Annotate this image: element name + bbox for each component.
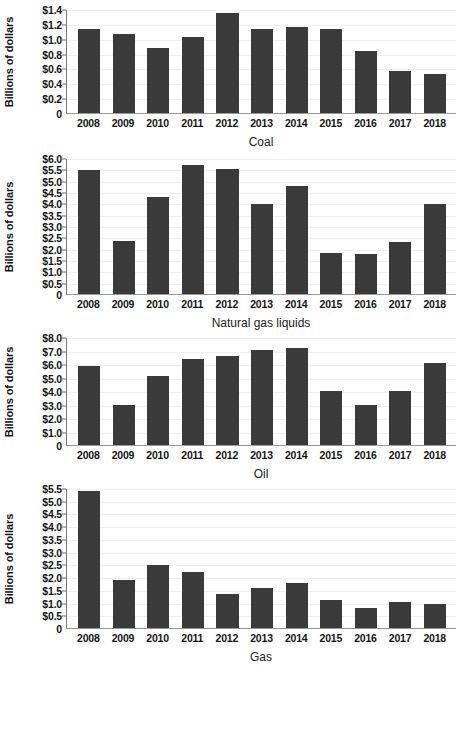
y-tick-label: $0.8 (42, 49, 62, 61)
bar[interactable] (389, 71, 411, 113)
bar-series (67, 159, 456, 294)
bar-slot (348, 338, 383, 445)
bar[interactable] (113, 241, 135, 294)
y-tick-label: $4.5 (42, 187, 62, 199)
y-tick-label: 0 (56, 289, 62, 301)
x-tick-label: 2010 (140, 632, 175, 644)
bar[interactable] (424, 74, 446, 113)
x-tick-label: 2018 (417, 298, 452, 310)
chart-panel-coal: Billions of dollars0$0.2$0.4$0.6$0.8$1.0… (0, 0, 456, 149)
bar[interactable] (424, 604, 446, 628)
bar[interactable] (286, 27, 308, 113)
y-tick-label: $5.5 (42, 483, 62, 495)
bar-slot (383, 10, 418, 113)
bar[interactable] (286, 186, 308, 294)
bar[interactable] (113, 405, 135, 445)
bar[interactable] (320, 29, 342, 113)
x-tick-label: 2012 (210, 117, 245, 129)
bar[interactable] (147, 48, 169, 113)
y-tick-label: 0 (56, 623, 62, 635)
bar[interactable] (251, 29, 273, 113)
bar[interactable] (424, 363, 446, 445)
bar[interactable] (147, 197, 169, 294)
bar[interactable] (320, 391, 342, 445)
y-tick-label: $1.2 (42, 19, 62, 31)
bar[interactable] (355, 405, 377, 445)
y-tick-label: $2.0 (42, 244, 62, 256)
bar[interactable] (424, 204, 446, 294)
y-tick-label: $0.6 (42, 63, 62, 75)
bar[interactable] (216, 169, 238, 294)
bar[interactable] (216, 13, 238, 113)
y-tick-label: $1.0 (42, 598, 62, 610)
bar-slot (245, 159, 280, 294)
bar[interactable] (78, 29, 100, 113)
x-axis-ticks: 2008200920102011201220132014201520162017… (66, 449, 456, 461)
bar-slot (176, 338, 211, 445)
bar[interactable] (78, 491, 100, 628)
bar[interactable] (216, 594, 238, 628)
bar[interactable] (355, 51, 377, 113)
x-tick-label: 2012 (210, 298, 245, 310)
x-tick-label: 2010 (140, 298, 175, 310)
bar[interactable] (355, 254, 377, 294)
y-tick-label: $3.0 (42, 547, 62, 559)
bar[interactable] (182, 165, 204, 294)
plot-canvas (66, 338, 456, 446)
x-tick-label: 2016 (348, 298, 383, 310)
x-tick-label: 2014 (279, 449, 314, 461)
bar-slot (245, 489, 280, 628)
plot-area: Billions of dollars0$0.5$1.0$1.5$2.0$2.5… (0, 489, 456, 644)
x-tick-label: 2014 (279, 298, 314, 310)
bar[interactable] (182, 572, 204, 628)
bar[interactable] (78, 170, 100, 294)
y-tick-label: $1.0 (42, 34, 62, 46)
x-tick-label: 2015 (313, 449, 348, 461)
chart-panel-natural-gas-liquids: Billions of dollars0$0.5$1.0$1.5$2.0$2.5… (0, 149, 456, 330)
x-tick-label: 2017 (383, 632, 418, 644)
bar[interactable] (389, 391, 411, 445)
bar[interactable] (216, 356, 238, 445)
bar[interactable] (251, 204, 273, 294)
bar[interactable] (113, 34, 135, 113)
y-tick-label: $6.0 (42, 153, 62, 165)
bar-slot (417, 338, 452, 445)
bar-slot (210, 159, 245, 294)
bar[interactable] (286, 583, 308, 628)
x-tick-label: 2017 (383, 117, 418, 129)
x-tick-label: 2010 (140, 449, 175, 461)
y-tick-label: $3.5 (42, 534, 62, 546)
bar[interactable] (78, 366, 100, 445)
bar-slot (314, 159, 349, 294)
bar[interactable] (286, 348, 308, 445)
bar[interactable] (147, 565, 169, 628)
bar-slot (210, 10, 245, 113)
bar[interactable] (182, 359, 204, 445)
bar-slot (141, 10, 176, 113)
bar[interactable] (389, 602, 411, 628)
x-axis-ticks: 2008200920102011201220132014201520162017… (66, 117, 456, 129)
y-tick-label: $1.0 (42, 427, 62, 439)
bar[interactable] (251, 588, 273, 628)
bar-series (67, 489, 456, 628)
x-tick-label: 2009 (106, 449, 141, 461)
x-tick-label: 2011 (175, 632, 210, 644)
y-tick-label: $2.0 (42, 572, 62, 584)
bar[interactable] (320, 253, 342, 294)
bar[interactable] (147, 376, 169, 445)
bar-slot (314, 10, 349, 113)
bar-series (67, 10, 456, 113)
plot-wrap: 2008200920102011201220132014201520162017… (66, 159, 456, 310)
plot-wrap: 2008200920102011201220132014201520162017… (66, 338, 456, 461)
panel-title: Natural gas liquids (66, 316, 456, 330)
bar[interactable] (182, 37, 204, 114)
y-tick-label: $3.0 (42, 221, 62, 233)
bar[interactable] (355, 608, 377, 628)
bar[interactable] (113, 580, 135, 628)
bar[interactable] (389, 242, 411, 294)
y-tick-label: $6.0 (42, 359, 62, 371)
bar-slot (348, 159, 383, 294)
bar[interactable] (320, 600, 342, 628)
bar[interactable] (251, 350, 273, 445)
y-tick-label: $7.0 (42, 346, 62, 358)
